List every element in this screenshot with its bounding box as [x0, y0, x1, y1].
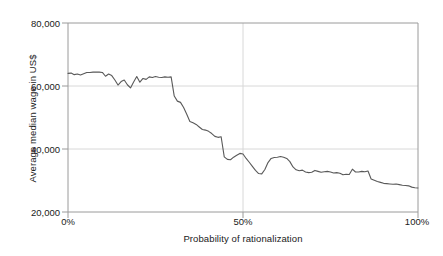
chart-container: Average median wage in US$ Probability o… [0, 0, 443, 256]
axis-ticks [62, 23, 418, 218]
plot-area [0, 0, 443, 256]
gridlines [68, 23, 418, 212]
